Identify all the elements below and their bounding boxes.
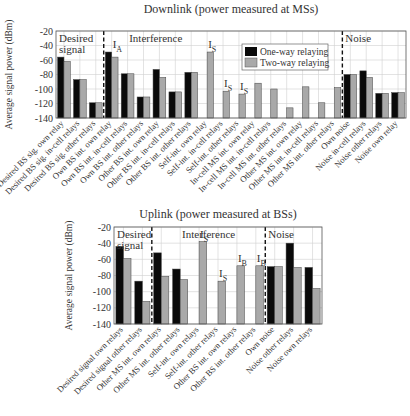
bar-one-way [74,80,80,118]
bar-two-way [350,75,356,119]
y-tick-label: -80 [98,270,111,281]
downlink-chart: Downlink (power measured at MSs)-20-40-6… [0,0,410,205]
annotation-label: IS [224,77,232,93]
bar-two-way [180,280,188,324]
bar-one-way [58,57,64,118]
bar-one-way [121,74,127,118]
bar-two-way [207,52,213,118]
region-label: Interference [129,32,182,44]
bar-two-way [96,103,102,118]
y-tick-label: -100 [35,84,53,95]
bar-one-way [135,281,143,324]
uplink-chart: Uplink (power measured at BSs)-20-40-60-… [0,205,410,416]
region-label: signal [59,43,85,55]
bar-two-way [271,89,277,118]
y-tick-label: -60 [40,55,53,66]
y-tick-label: -20 [40,26,53,37]
annotation-label: IB [257,252,266,268]
y-tick-label: -60 [98,254,111,265]
region-label: signal [117,239,143,251]
bar-two-way [275,267,283,324]
uplink-chart-svg: Uplink (power measured at BSs)-20-40-60-… [0,205,410,416]
bar-one-way [305,267,313,324]
bar-two-way [287,108,293,118]
bar-two-way [382,93,388,118]
bar-one-way [116,246,124,324]
bar-two-way [239,94,245,118]
region-label: Noise [268,228,294,240]
bar-one-way [267,267,275,324]
bar-two-way [175,92,181,118]
bar-one-way [89,103,95,118]
legend-swatch-two-way [245,58,257,67]
chart-title: Downlink (power measured at MSs) [144,2,319,16]
bar-two-way [237,266,245,324]
downlink-chart-svg: Downlink (power measured at MSs)-20-40-6… [0,0,410,205]
bar-two-way [112,57,118,118]
y-axis-label: Average signal power (dBm) [64,221,75,331]
bar-two-way [64,61,70,118]
bar-two-way [123,259,131,324]
bar-two-way [366,77,372,118]
annotation-label: IS [240,80,248,96]
bar-two-way [319,103,325,118]
annotation-label: IS [219,267,227,283]
legend-label-one-way: One-way relaying [260,47,329,57]
bar-two-way [128,74,134,118]
bar-two-way [313,288,321,324]
bar-two-way [334,88,340,118]
bar-two-way [161,276,169,324]
bar-two-way [159,77,165,118]
annotation-label: IB [238,252,247,268]
bar-one-way [286,243,294,324]
y-tick-label: -140 [93,319,111,330]
region-label: Noise [345,32,371,44]
y-tick-label: -40 [40,40,53,51]
legend: One-way relayingTwo-way relaying [242,44,329,70]
y-axis-label: Average signal power (dBm) [4,20,15,130]
bar-two-way [294,267,302,324]
bar-two-way [398,93,404,118]
annotation-label: IS [208,38,216,54]
bar-one-way [185,72,191,118]
bar-two-way [144,97,150,118]
y-tick-label: -140 [35,113,53,124]
y-tick-label: -100 [93,286,111,297]
bar-one-way [173,269,181,324]
annotation-label: IA [113,38,123,54]
bar-two-way [142,301,150,324]
legend-label-two-way: Two-way relaying [260,58,329,68]
y-tick-label: -20 [98,222,111,233]
y-tick-label: -120 [35,98,53,109]
bar-one-way [360,71,366,118]
bar-two-way [223,91,229,118]
region-label: Interference [182,228,235,240]
y-tick-label: -40 [98,238,111,249]
bar-two-way [218,281,226,324]
bar-one-way [169,92,175,118]
bar-one-way [376,93,382,118]
bar-two-way [191,72,197,118]
bar-two-way [303,87,309,118]
y-tick-label: -80 [40,69,53,80]
bar-one-way [344,75,350,119]
bar-one-way [154,253,162,324]
bar-one-way [392,93,398,118]
bar-one-way [105,52,111,118]
chart-title: Uplink (power measured at BSs) [139,207,296,221]
bar-one-way [153,69,159,118]
bar-two-way [255,83,261,118]
y-tick-label: -120 [93,302,111,313]
legend-swatch-one-way [245,47,257,56]
bar-two-way [199,242,207,324]
bar-two-way [80,80,86,118]
bar-one-way [137,97,143,118]
bar-two-way [256,266,264,324]
